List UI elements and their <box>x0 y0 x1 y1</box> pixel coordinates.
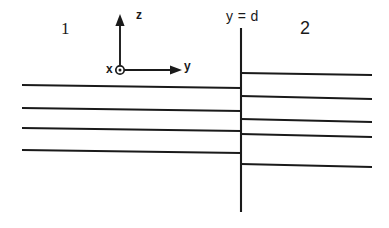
wavefront-boundary-figure: 1 2 y = d z y x <box>0 0 389 228</box>
region-2-label: 2 <box>300 19 310 37</box>
incident-wavefront-4 <box>22 150 241 153</box>
transmitted-wavefront-1 <box>241 73 372 75</box>
transmitted-wavefront-2 <box>241 96 372 99</box>
incident-wavefront-1 <box>22 85 241 88</box>
interface-equation-label: y = d <box>226 9 259 23</box>
y-axis-arrowhead <box>170 65 182 74</box>
region-1-label: 1 <box>61 20 70 37</box>
region-2-wavefront-group <box>241 73 372 167</box>
x-axis-label: x <box>106 63 113 75</box>
x-axis-center-dot-icon <box>119 69 122 72</box>
transmitted-wavefront-4 <box>241 134 372 137</box>
incident-wavefront-2 <box>22 108 241 111</box>
z-axis-arrowhead <box>115 14 124 26</box>
y-axis-label: y <box>184 60 191 72</box>
incident-wavefront-3 <box>22 128 241 131</box>
coordinate-axes <box>115 14 182 75</box>
z-axis-label: z <box>136 9 142 21</box>
transmitted-wavefront-5 <box>241 164 372 167</box>
transmitted-wavefront-3 <box>241 119 372 122</box>
region-1-wavefront-group <box>22 85 241 153</box>
figure-canvas <box>0 0 389 228</box>
